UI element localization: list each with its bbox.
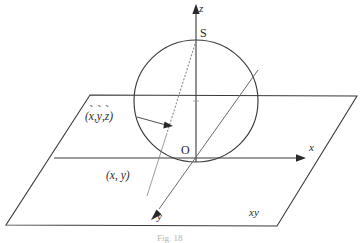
sphere-point-label: (˜x,˜y,˜z) xyxy=(85,111,113,123)
z-tilde: ˜z xyxy=(105,111,109,123)
figure-caption: Fig. 18 xyxy=(157,233,183,243)
north-pole-label-s: S xyxy=(200,27,207,39)
projection-ray-dotted xyxy=(167,41,196,133)
x-axis-label: x xyxy=(309,142,314,153)
xy-plane-label: xy xyxy=(249,207,259,218)
sphere-point-annotation-arrow-shaft xyxy=(137,117,166,125)
y-axis-label: y xyxy=(157,211,162,222)
figure-container: z x y S O (˜x,˜y,˜z) (x, y) xy Fig. 18 xyxy=(0,0,360,243)
y-tilde: ˜y xyxy=(97,111,102,123)
sphere-point-annotation-arrowhead xyxy=(163,121,173,128)
z-axis-label: z xyxy=(199,3,203,14)
y-axis-line xyxy=(159,70,258,209)
plane-point-label: (x, y) xyxy=(106,170,130,182)
paren-close: ) xyxy=(109,110,113,122)
origin-label-o: O xyxy=(181,144,190,156)
x-axis-arrowhead xyxy=(296,154,306,162)
x-tilde: ˜x xyxy=(89,111,94,123)
diagram-canvas xyxy=(0,0,360,243)
